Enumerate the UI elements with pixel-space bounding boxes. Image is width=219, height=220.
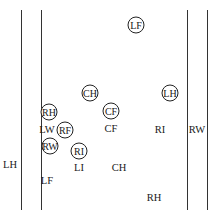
inner-right-line	[187, 10, 188, 210]
outer-right-line	[207, 10, 208, 210]
position-label: CH	[112, 162, 127, 174]
position-label: LI	[74, 162, 84, 174]
circled-position: CF	[103, 103, 120, 120]
position-label: RW	[189, 124, 205, 136]
circled-position: CH	[82, 85, 99, 102]
position-label: RI	[155, 124, 166, 136]
circled-position: RH	[41, 104, 58, 121]
position-label: LF	[41, 175, 53, 187]
circled-position: LH	[162, 85, 179, 102]
position-label: LW	[39, 124, 55, 136]
circled-position: RW	[42, 138, 59, 155]
outer-left-line	[21, 10, 22, 210]
position-label: CF	[105, 123, 118, 135]
circled-position: LF	[128, 17, 145, 34]
position-label: LH	[3, 159, 17, 171]
circled-position: RF	[57, 122, 74, 139]
circled-position: RI	[71, 143, 88, 160]
position-label: RH	[147, 192, 162, 204]
